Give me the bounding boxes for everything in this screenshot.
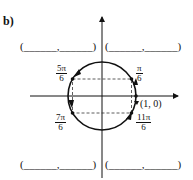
angle-label-pi6: π 6 bbox=[136, 64, 143, 83]
point-1-0 bbox=[134, 94, 138, 98]
angle-label-11pi6: 11π 6 bbox=[136, 113, 151, 132]
point-7pi6 bbox=[71, 111, 75, 115]
point-pi6 bbox=[130, 77, 134, 81]
angle-label-5pi6: 5π 6 bbox=[56, 64, 67, 83]
blank-top-right[interactable]: (______,______) bbox=[105, 40, 181, 52]
blank-bottom-left[interactable]: (______,______) bbox=[20, 158, 96, 170]
blank-top-left[interactable]: (______,______) bbox=[20, 40, 96, 52]
angle-label-7pi6: 7π 6 bbox=[55, 113, 66, 132]
part-label: b) bbox=[3, 15, 14, 27]
blank-bottom-right[interactable]: (______,______) bbox=[105, 158, 181, 170]
point-5pi6 bbox=[71, 77, 75, 81]
unit-circle-diagram bbox=[0, 0, 193, 180]
point-label-1-0: (1, 0) bbox=[140, 99, 162, 109]
